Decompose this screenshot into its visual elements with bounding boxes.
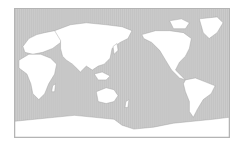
world-map[interactable]: World map (Pacific-centered) <box>14 8 230 138</box>
map-canvas <box>15 9 229 137</box>
